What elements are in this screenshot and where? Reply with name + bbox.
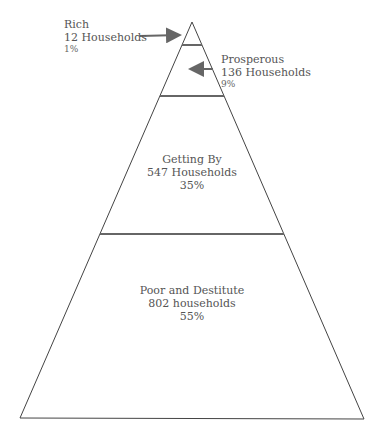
prosperous-count: 136 Households — [221, 66, 311, 79]
rich-count: 12 Households — [64, 31, 147, 44]
poor-count: 802 households — [140, 297, 244, 310]
pyramid-diagram — [0, 0, 385, 442]
prosperous-percent: 9% — [221, 79, 311, 90]
getting-by-name: Getting By — [147, 153, 237, 166]
rich-label: Rich 12 Households 1% — [64, 18, 147, 55]
pyramid-outline — [20, 22, 364, 419]
poor-percent: 55% — [140, 310, 244, 323]
getting-by-count: 547 Households — [147, 166, 237, 179]
rich-name: Rich — [64, 18, 147, 31]
poor-name: Poor and Destitute — [140, 284, 244, 297]
getting-by-label: Getting By 547 Households 35% — [147, 153, 237, 192]
poor-label: Poor and Destitute 802 households 55% — [140, 284, 244, 323]
rich-percent: 1% — [64, 44, 147, 55]
getting-by-percent: 35% — [147, 179, 237, 192]
prosperous-label: Prosperous 136 Households 9% — [221, 53, 311, 90]
prosperous-name: Prosperous — [221, 53, 311, 66]
